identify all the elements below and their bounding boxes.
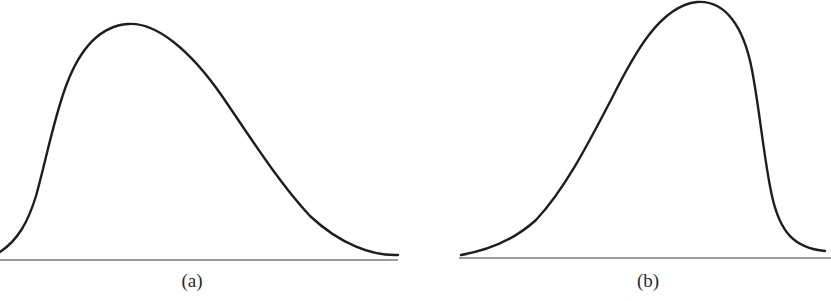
curve-b-left-skewed <box>461 2 825 255</box>
curve-a-right-skewed <box>0 24 398 255</box>
caption-b: (b) <box>637 270 659 292</box>
figure-canvas <box>0 0 831 301</box>
skewness-figure: (a) (b) <box>0 0 831 301</box>
caption-a: (a) <box>181 270 202 292</box>
